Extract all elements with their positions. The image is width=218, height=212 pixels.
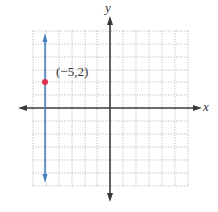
x-axis-left-arrow-icon (18, 105, 27, 111)
y-axis-label: y (105, 0, 111, 16)
x-axis-label: x (203, 99, 209, 115)
line-bottom-arrow-icon (43, 174, 48, 183)
point-label: (−5,2) (56, 64, 88, 80)
coordinate-plane (0, 0, 218, 212)
y-axis-top-arrow-icon (107, 16, 113, 25)
x-axis-right-arrow-icon (193, 105, 202, 111)
y-axis (107, 16, 113, 202)
point-neg5-2 (42, 79, 48, 85)
line-top-arrow-icon (43, 33, 48, 42)
y-axis-bottom-arrow-icon (107, 193, 113, 202)
